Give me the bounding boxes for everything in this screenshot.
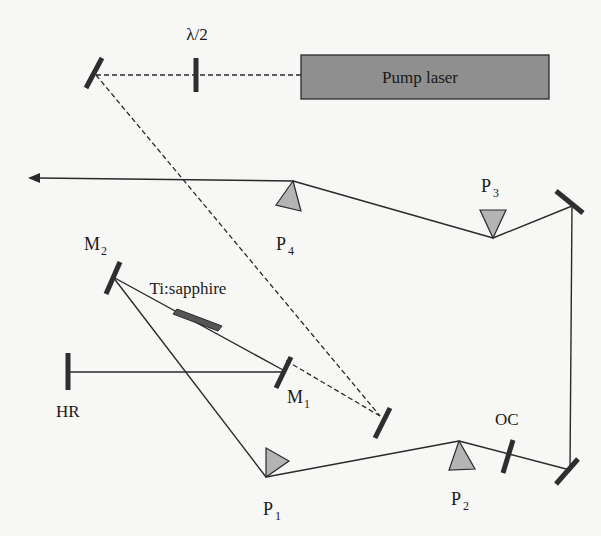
pump-steering-mirror	[86, 58, 102, 88]
output-coupler-label: OC	[495, 410, 519, 429]
fold-mirror-bottom-right	[556, 459, 578, 484]
pump-laser-label: Pump laser	[382, 68, 458, 87]
prism-p4	[276, 181, 301, 211]
pump-focusing-mirror	[375, 408, 390, 438]
prism-p4-label: P	[276, 234, 286, 254]
prism-p4-subscript: 4	[288, 244, 294, 258]
ti-sapphire-crystal	[173, 309, 222, 331]
mirror-m2	[106, 262, 120, 294]
prism-p2-subscript: 2	[463, 499, 469, 513]
crystal-label: Ti:sapphire	[150, 279, 227, 298]
mirror-m1-label: M	[287, 387, 303, 407]
prism-p1-label: P	[263, 499, 273, 519]
half-wave-plate-label: λ/2	[186, 25, 207, 44]
ti-sapphire-laser-diagram: Pump laser λ/2 Ti:sapphir	[0, 0, 601, 536]
pump-beam	[96, 75, 380, 416]
high-reflector-label: HR	[56, 402, 80, 421]
prism-p3-subscript: 3	[493, 186, 499, 200]
prism-p3-label: P	[481, 176, 491, 196]
prism-p2-label: P	[451, 489, 461, 509]
output-arrow-icon	[28, 173, 40, 183]
mirror-m2-subscript: 2	[101, 244, 107, 258]
mirror-m2-label: M	[84, 234, 100, 254]
prism-p2	[449, 441, 475, 470]
pump-laser: Pump laser	[301, 55, 549, 99]
output-coupler	[503, 440, 513, 473]
fold-mirror-top-right	[556, 191, 583, 213]
mirror-m1-subscript: 1	[304, 397, 310, 411]
prism-p1-subscript: 1	[275, 509, 281, 523]
